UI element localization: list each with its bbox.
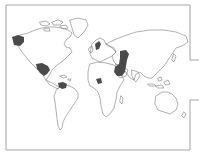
region-scandinavia (95, 41, 101, 50)
greenland-outline (70, 18, 88, 38)
japan-outline (172, 54, 176, 62)
south-america-outline (54, 85, 78, 130)
australia-outline (155, 92, 178, 114)
central-america-outline (46, 80, 60, 89)
india-outline (132, 70, 140, 82)
region-mexico (36, 63, 50, 76)
europe-outline (90, 38, 116, 62)
arctic-islands-outline (40, 20, 68, 31)
highlighted-regions (12, 35, 129, 89)
region-west-central-africa (96, 78, 102, 84)
region-western-north-america (12, 35, 24, 46)
region-middle-east-central-asia (114, 50, 129, 76)
map-frame (6, 5, 199, 150)
caribbean-outline (60, 75, 71, 81)
indonesia-outline (148, 77, 170, 88)
world-map (0, 0, 199, 157)
madagascar-outline (120, 96, 123, 104)
coastlines (14, 18, 188, 130)
new-zealand-outline (182, 112, 186, 118)
